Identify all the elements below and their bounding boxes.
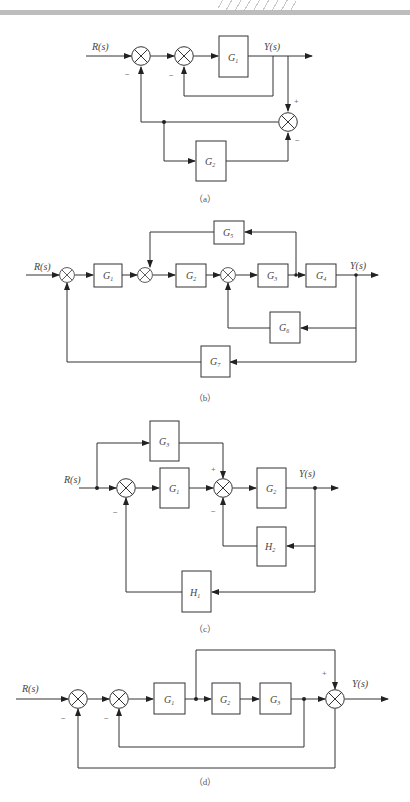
output-label: Y(s) (352, 678, 369, 690)
summing-junction-2 (175, 47, 194, 66)
summing-junction-3 (326, 690, 345, 709)
diagram-a: G1 G2 R(s) Y(s) − − + − （a） (86, 36, 312, 204)
summing-junction-1 (117, 479, 136, 498)
branch-point (302, 697, 306, 701)
sign-minus: − (295, 136, 300, 145)
sign-plus: + (211, 465, 216, 474)
caption-c: （c） (194, 624, 216, 634)
sign-minus: − (169, 71, 174, 80)
branch-point (162, 120, 166, 124)
output-label: Y(s) (264, 41, 281, 53)
caption-d: （d） (194, 777, 217, 787)
sign-minus: − (104, 714, 109, 723)
sign-minus: − (211, 507, 216, 516)
summing-junction-1 (69, 690, 88, 709)
diagram-b: G1 G2 G3 G4 G5 G6 G7 R(s) Y(s) （b） (26, 221, 378, 403)
summing-junction-3 (279, 113, 298, 132)
diagram-c: G1 G2 G3 H2 H1 R(s) Y(s) − + − （c） (63, 421, 338, 634)
sign-plus: + (322, 669, 327, 678)
input-label: R(s) (91, 41, 109, 53)
branch-point (194, 697, 198, 701)
sign-minus: − (125, 70, 130, 79)
summing-junction-2 (214, 479, 233, 498)
summing-junction-2 (110, 690, 129, 709)
summing-junction-3 (221, 268, 236, 283)
summing-junction-1 (132, 47, 151, 66)
input-label: R(s) (33, 261, 51, 273)
branch-point (313, 486, 317, 490)
sign-minus: − (61, 714, 66, 723)
branch-point (294, 273, 298, 277)
summing-junction-2 (138, 268, 153, 283)
input-label: R(s) (63, 474, 81, 486)
branch-point (354, 273, 358, 277)
sign-plus: + (294, 97, 299, 106)
caption-b: （b） (194, 393, 217, 403)
output-label: Y(s) (299, 468, 316, 480)
caption-a: （a） (194, 194, 216, 204)
sign-minus: − (113, 508, 118, 517)
input-label: R(s) (21, 683, 39, 695)
block-diagrams: G1 G2 R(s) Y(s) − − + − （a） G1 (0, 0, 410, 802)
output-label: Y(s) (350, 260, 367, 272)
branch-point (95, 486, 99, 490)
diagram-d: G1 G2 G3 R(s) Y(s) − − + （d） (16, 650, 388, 787)
summing-junction-1 (60, 268, 75, 283)
